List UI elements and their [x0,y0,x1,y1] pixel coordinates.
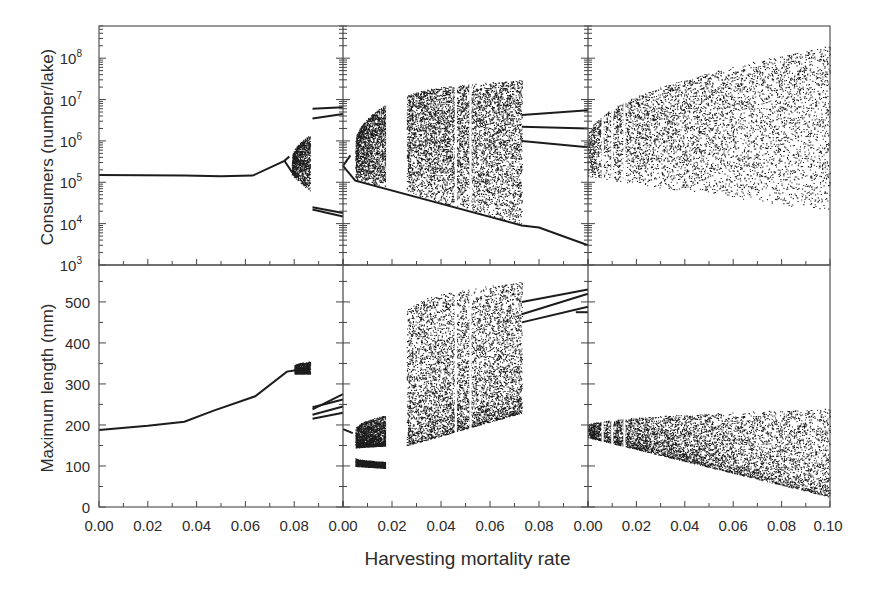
x-tick-label: 0.04 [182,517,211,534]
periodic-window-gap [386,27,388,264]
periodic-window-gap [455,266,457,506]
x-tick-label: 0.06 [231,517,260,534]
attractor-branch [522,110,588,115]
attractor-branch [522,307,588,323]
attractor-branch [522,141,588,147]
periodic-window-gap [386,266,388,506]
attractor-branch [343,429,353,433]
length-panel-1 [99,362,343,430]
y-tick-label: 300 [65,376,90,393]
x-tick-label: 0.02 [622,517,651,534]
scatter-band [407,80,523,224]
y-tick-label: 100 [65,458,90,475]
attractor-branch [522,294,588,315]
y-tick-label: 106 [60,131,83,150]
periodic-window-gap [623,27,625,264]
x-tick-label: 0.04 [426,517,455,534]
y-tick-label: 104 [60,214,83,233]
periodic-window-gap [602,27,604,264]
x-tick-label: 0.10 [813,517,842,534]
y-tick-label: 200 [65,417,90,434]
x-tick-label: 0.06 [719,517,748,534]
x-tick-label: 0.00 [573,517,602,534]
y-axis-label-max-length: Maximum length (mm) [38,288,58,488]
x-tick-label: 0.08 [524,517,553,534]
y-tick-label: 107 [60,90,83,109]
y-tick-label: 400 [65,335,90,352]
y-tick-label: 500 [65,294,90,311]
attractor-branch [522,127,588,129]
x-tick-label: 0.04 [670,517,699,534]
periodic-window-gap [602,266,604,506]
x-tick-label: 0.00 [328,517,357,534]
consumers-panel-1 [99,107,343,216]
x-axis-title: Harvesting mortality rate [0,548,875,570]
y-tick-label: 0 [82,499,90,516]
scatter-band [355,105,388,188]
bifurcation-figure: 10310410510610710801002003004005000.000.… [0,0,875,590]
consumers-panel-3 [588,27,831,264]
x-tick-label: 0.02 [377,517,406,534]
y-tick-label: 108 [60,48,83,67]
periodic-window-gap [611,266,613,506]
x-tick-label: 0.08 [280,517,309,534]
length-panel-2 [343,266,588,506]
attractor-branch [99,368,309,430]
periodic-window-gap [611,27,613,264]
attractor-branch [343,166,588,246]
periodic-window-gap [623,266,625,506]
consumers-panel-2 [343,27,588,264]
scatter-band [355,458,388,469]
x-tick-label: 0.08 [767,517,796,534]
scatter-band [407,282,523,446]
x-tick-label: 0.06 [475,517,504,534]
y-tick-label: 103 [60,255,83,274]
attractor-branch [313,114,344,119]
attractor-branch [99,157,289,177]
attractor-branch [313,107,344,108]
length-panel-3 [588,266,831,506]
x-tick-label: 0.00 [84,517,113,534]
x-tick-label: 0.02 [133,517,162,534]
periodic-window-gap [469,27,471,264]
periodic-window-gap [469,266,471,506]
scatter-band [355,415,388,449]
periodic-window-gap [455,27,457,264]
y-axis-label-consumers: Consumers (number/lake) [38,37,58,257]
y-tick-label: 105 [60,172,83,191]
scatter-band [292,136,311,191]
